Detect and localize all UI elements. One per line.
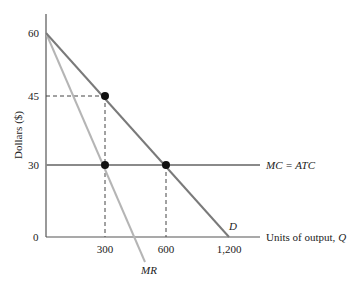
x-axis-label-var: Q [338,231,346,243]
y-axis-label: Dollars ($) [12,111,25,159]
y-tick-0: 0 [33,231,39,243]
demand-line [46,33,229,237]
y-tick-60: 60 [28,27,40,39]
demand-label: D [228,220,237,232]
x-tick-300: 300 [97,243,114,255]
x-axis-label: Units of output, Q [266,231,346,243]
y-tick-45: 45 [28,90,40,102]
point-600-30 [162,161,170,169]
x-tick-600: 600 [158,243,175,255]
mr-label: MR [140,264,157,276]
x-axis-label-prefix: Units of output, [266,231,338,243]
mc-atc-label: MC = ATC [265,159,316,171]
y-tick-30: 30 [28,159,40,171]
mr-line [46,33,145,262]
point-300-30 [101,161,109,169]
point-300-45 [101,92,109,100]
monopoly-chart: 60 45 30 0 300 600 1,200 Dollars ($) Uni… [0,0,357,282]
x-tick-1200: 1,200 [217,243,242,255]
